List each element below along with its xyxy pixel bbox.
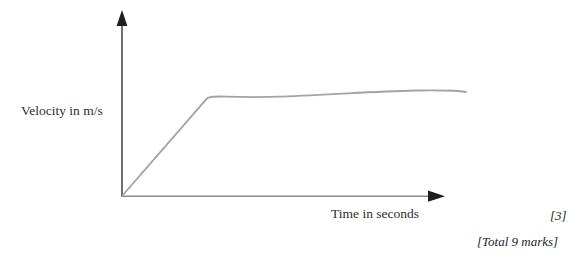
question-marks-text: [3] [550, 209, 567, 222]
velocity-curve [123, 90, 467, 195]
velocity-time-graph-figure: Velocity in m/s Time in seconds [3] [Tot… [0, 0, 578, 262]
graph-canvas [0, 0, 578, 262]
x-axis-arrow-icon [428, 191, 445, 202]
y-axis-label: Velocity in m/s [21, 104, 103, 118]
x-axis-label: Time in seconds [331, 207, 419, 221]
total-marks-text: [Total 9 marks] [477, 235, 558, 248]
y-axis-arrow-icon [117, 10, 128, 26]
